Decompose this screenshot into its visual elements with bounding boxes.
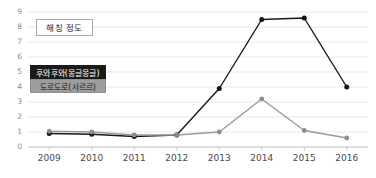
x-tick-label: 2013 [208, 153, 231, 163]
line-chart: 0123456789 20092010201120122013201420152… [0, 0, 376, 178]
data-point [217, 86, 222, 91]
data-point [217, 130, 222, 135]
y-tick-label: 8 [17, 22, 22, 31]
x-axis-tick-marks [49, 147, 347, 151]
data-point [259, 17, 264, 22]
y-tick-label: 6 [17, 52, 22, 61]
y-tick-label: 2 [17, 112, 22, 121]
data-point [302, 16, 307, 21]
legend-item-dorodoro[interactable]: 도로도로(사르르) [30, 79, 106, 93]
x-tick-label: 2015 [293, 153, 316, 163]
legend-item-huwahuwa[interactable]: 후와후와(몽글몽글) [30, 65, 106, 79]
y-axis-tick-labels: 0123456789 [17, 7, 22, 151]
y-tick-label: 4 [17, 82, 22, 91]
chart-title-box: 해칭 정도 [36, 19, 93, 36]
y-tick-label: 3 [17, 97, 22, 106]
data-point [47, 129, 52, 134]
data-point [132, 133, 137, 138]
data-point [344, 85, 349, 90]
y-tick-label: 0 [17, 142, 22, 151]
data-point [344, 136, 349, 141]
x-tick-label: 2010 [80, 153, 103, 163]
x-tick-label: 2012 [165, 153, 188, 163]
x-axis-tick-labels: 20092010201120122013201420152016 [38, 153, 359, 163]
x-tick-label: 2011 [123, 153, 146, 163]
x-tick-label: 2016 [335, 153, 358, 163]
x-tick-label: 2009 [38, 153, 61, 163]
data-point [259, 97, 264, 102]
y-tick-label: 5 [17, 67, 22, 76]
y-tick-label: 7 [17, 37, 22, 46]
x-tick-label: 2014 [250, 153, 273, 163]
y-tick-label: 1 [17, 127, 22, 136]
data-point [89, 130, 94, 135]
data-point [174, 133, 179, 138]
data-point [302, 128, 307, 133]
y-tick-label: 9 [17, 7, 22, 16]
